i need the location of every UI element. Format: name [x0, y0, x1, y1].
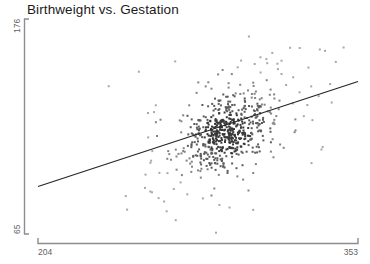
scatter-point [227, 170, 229, 172]
scatter-point [200, 155, 202, 157]
scatter-point [221, 129, 223, 131]
scatter-point [196, 127, 198, 129]
scatter-point [241, 109, 243, 111]
scatter-point [224, 129, 226, 131]
scatter-point [153, 111, 155, 113]
scatter-point [273, 93, 275, 95]
scatter-point [197, 151, 199, 153]
scatter-point [186, 160, 188, 162]
scatter-point [190, 126, 192, 128]
scatter-point [262, 139, 264, 141]
scatter-point [229, 112, 231, 114]
plot-canvas: 176 65 204 353 [0, 0, 370, 264]
scatter-point [239, 93, 241, 95]
scatter-point [256, 146, 258, 148]
scatter-point [335, 61, 337, 63]
scatter-point [218, 100, 220, 102]
scatter-point [261, 122, 263, 124]
scatter-point [208, 162, 210, 164]
scatter-point [237, 141, 239, 143]
scatter-point [207, 154, 209, 156]
scatter-point [226, 126, 228, 128]
scatter-point [222, 147, 224, 149]
scatter-point [192, 155, 194, 157]
scatter-point [206, 122, 208, 124]
scatter-point [182, 114, 184, 116]
scatter-point [201, 136, 203, 138]
scatter-point [343, 47, 345, 49]
scatter-point [211, 167, 213, 169]
scatter-point [294, 131, 296, 133]
scatter-point [158, 172, 160, 174]
scatter-point [278, 108, 280, 110]
scatter-point [227, 148, 229, 150]
scatter-point [261, 104, 263, 106]
scatter-point [187, 115, 189, 117]
scatter-point [237, 66, 239, 68]
scatter-point [219, 129, 221, 131]
scatter-point [244, 111, 246, 113]
scatter-point [212, 156, 214, 158]
scatter-point [228, 126, 230, 128]
scatter-point [193, 123, 195, 125]
scatter-point [229, 101, 231, 103]
scatter-point [235, 112, 237, 114]
scatter-point [232, 143, 234, 145]
scatter-point [138, 71, 140, 73]
scatter-point [235, 92, 237, 94]
scatter-point [270, 107, 272, 109]
scatter-point [289, 47, 291, 49]
scatter-point [281, 60, 283, 62]
scatter-point [263, 121, 265, 123]
scatter-point [262, 119, 264, 121]
scatter-point [306, 104, 308, 106]
scatter-point [283, 147, 285, 149]
scatter-point [262, 117, 264, 119]
scatter-point [221, 150, 223, 152]
scatter-point [295, 129, 297, 131]
scatter-point [216, 134, 218, 136]
scatter-point [189, 157, 191, 159]
scatter-point [251, 97, 253, 99]
scatter-point [211, 195, 213, 197]
scatter-point [212, 115, 214, 117]
scatter-point [232, 94, 234, 96]
scatter-point [256, 151, 258, 153]
scatter-point [235, 137, 237, 139]
scatter-point [244, 122, 246, 124]
scatter-point [230, 118, 232, 120]
scatter-point [252, 82, 254, 84]
x-axis-tick-left: 204 [38, 247, 52, 257]
scatter-point [254, 152, 256, 154]
scatter-point [178, 153, 180, 155]
scatter-point [217, 146, 219, 148]
scatter-point [150, 160, 152, 162]
scatter-point [180, 181, 182, 183]
scatter-point [224, 112, 226, 114]
scatter-point [269, 94, 271, 96]
scatter-point [200, 158, 202, 160]
scatter-point [198, 120, 200, 122]
scatter-point [255, 91, 257, 93]
scatter-point [240, 60, 242, 62]
scatter-point [223, 162, 225, 164]
scatter-point [190, 171, 192, 173]
scatter-point [190, 146, 192, 148]
scatter-point [207, 126, 209, 128]
scatter-point [273, 156, 275, 158]
scatter-point [215, 138, 217, 140]
scatter-point [176, 169, 178, 171]
y-axis-tick-bottom: 65 [12, 224, 22, 234]
scatter-point [224, 167, 226, 169]
scatter-point [207, 119, 209, 121]
scatter-point [273, 122, 275, 124]
scatter-point [254, 63, 256, 65]
scatter-point [221, 158, 223, 160]
scatter-point [211, 149, 213, 151]
scatter-point [211, 88, 213, 90]
scatter-point [285, 84, 287, 86]
scatter-point [259, 98, 261, 100]
scatter-point [186, 193, 188, 195]
scatter-point [219, 140, 221, 142]
scatter-point [256, 127, 258, 129]
